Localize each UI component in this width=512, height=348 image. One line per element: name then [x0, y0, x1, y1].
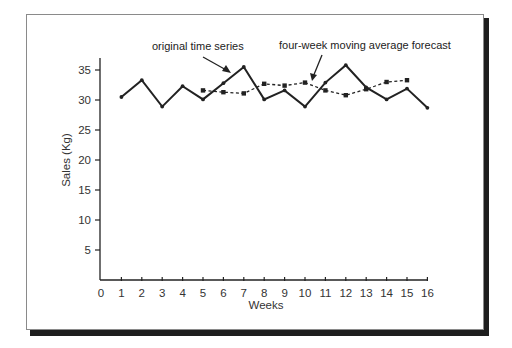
square-marker-icon — [242, 91, 246, 95]
dot-marker-icon — [262, 98, 266, 102]
square-marker-icon — [282, 83, 286, 87]
dot-marker-icon — [140, 78, 144, 82]
x-tick-label: 11 — [319, 287, 331, 299]
x-tick-label: 5 — [200, 287, 206, 299]
x-tick-label: 13 — [360, 287, 373, 299]
x-tick-label: 15 — [401, 287, 414, 299]
arrowhead-forecast-icon — [310, 73, 317, 81]
y-tick-label: 30 — [78, 94, 91, 106]
dot-marker-icon — [303, 105, 307, 109]
square-marker-icon — [221, 90, 225, 94]
y-axis-title: Sales (Kg) — [60, 133, 72, 187]
square-marker-icon — [344, 93, 348, 97]
x-tick-label: 10 — [299, 287, 312, 299]
dot-marker-icon — [222, 81, 226, 85]
y-tick-label: 15 — [78, 184, 91, 196]
x-tick-label: 8 — [261, 287, 267, 299]
y-tick-label: 35 — [78, 64, 91, 76]
y-ticks: 5101520253035 — [78, 64, 100, 256]
y-tick-label: 20 — [78, 154, 91, 166]
square-marker-icon — [262, 82, 266, 86]
arrow-forecast — [313, 55, 322, 77]
y-tick-label: 10 — [78, 214, 91, 226]
dot-marker-icon — [181, 84, 185, 88]
dot-marker-icon — [324, 81, 328, 85]
series-original — [120, 63, 430, 109]
line-chart: 5101520253035 012345678910111213141516 W… — [0, 0, 512, 348]
square-marker-icon — [364, 87, 368, 91]
x-tick-label: 1 — [118, 287, 124, 299]
x-axis-title: Weeks — [249, 299, 284, 311]
dot-marker-icon — [385, 98, 389, 102]
x-tick-label: 4 — [179, 287, 186, 299]
series-line — [121, 65, 427, 108]
dot-marker-icon — [405, 87, 409, 91]
dot-marker-icon — [242, 65, 246, 69]
x-tick-label: 7 — [241, 287, 247, 299]
x-tick-label: 12 — [339, 287, 352, 299]
dot-marker-icon — [160, 105, 164, 109]
y-tick-label: 25 — [78, 124, 91, 136]
dot-marker-icon — [344, 63, 348, 67]
dot-marker-icon — [120, 95, 124, 99]
square-marker-icon — [201, 88, 205, 92]
x-tick-label: 9 — [281, 287, 287, 299]
annotation-original: original time series — [152, 40, 244, 73]
square-marker-icon — [323, 88, 327, 92]
x-tick-label: 3 — [159, 287, 165, 299]
y-tick-label: 5 — [85, 244, 91, 256]
x-tick-label: 16 — [421, 287, 434, 299]
square-marker-icon — [405, 78, 409, 82]
annotation-original-label: original time series — [152, 40, 244, 52]
x-tick-label: 0 — [98, 287, 104, 299]
dot-marker-icon — [201, 98, 205, 102]
dot-marker-icon — [426, 106, 430, 110]
dot-marker-icon — [283, 89, 287, 93]
annotation-forecast: four-week moving average forecast — [279, 39, 451, 81]
series-layer — [120, 63, 430, 109]
x-tick-label: 6 — [220, 287, 226, 299]
annotation-forecast-label: four-week moving average forecast — [279, 39, 451, 51]
arrowhead-original-icon — [222, 65, 231, 73]
square-marker-icon — [303, 80, 307, 84]
square-marker-icon — [384, 80, 388, 84]
x-tick-label: 14 — [380, 287, 393, 299]
x-tick-label: 2 — [139, 287, 145, 299]
